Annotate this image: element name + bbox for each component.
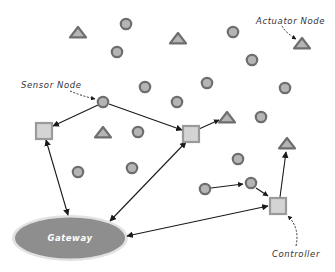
sensor-callout-arrow: [70, 91, 95, 99]
sensor-node-icon: [98, 97, 108, 107]
link-controller-to-actuator: [280, 152, 286, 197]
sensor-node-icon: [121, 19, 131, 29]
controller-callout-arrow: [288, 216, 297, 246]
sensor-node-icon: [140, 82, 150, 92]
link-sensor-to-controller: [256, 188, 268, 196]
center-relay-icon: [183, 126, 199, 142]
sensor-node-icon: [247, 55, 257, 65]
link-sensor-to-center-relay: [109, 104, 182, 130]
sensor-node-icon: [200, 184, 210, 194]
wsan-network-diagram: Gateway Sensor Node Actuator Node Contro…: [0, 0, 335, 272]
sensor-node-icon: [133, 127, 143, 137]
actuator-node-icon: [279, 138, 295, 148]
actuator-node-icon: [95, 127, 111, 137]
gateway: Gateway: [12, 215, 128, 261]
sensor-node-icon: [228, 27, 238, 37]
sensor-node-icon: [73, 167, 83, 177]
controller-icon: [270, 198, 286, 214]
controller-label: Controller: [272, 249, 320, 259]
gateway-label: Gateway: [48, 233, 93, 243]
actuator-node-label: Actuator Node: [255, 16, 325, 26]
sensor-nodes: [73, 19, 290, 194]
link-sensor-to-sensor: [211, 184, 243, 188]
actuator-node-icon: [170, 33, 186, 43]
sensor-node-icon: [112, 47, 122, 57]
sensor-node-icon: [246, 178, 256, 188]
link-gateway-controller: [127, 206, 268, 236]
sensor-node-icon: [202, 78, 212, 88]
sensor-node-icon: [172, 97, 182, 107]
sensor-node-icon: [233, 154, 243, 164]
actuator-callout-arrow: [282, 26, 296, 39]
actuator-node-icon: [294, 38, 310, 48]
left-relay-icon: [36, 123, 52, 139]
sensor-node-icon: [256, 112, 266, 122]
sensor-node-icon: [127, 163, 137, 173]
link-center-relay-gateway: [110, 142, 186, 221]
sensor-node-icon: [280, 83, 290, 93]
actuator-node-icon: [70, 27, 86, 37]
link-center-relay-to-actuator: [199, 120, 219, 129]
sensor-node-label: Sensor Node: [21, 80, 82, 90]
link-sensor-to-left-relay: [53, 105, 98, 126]
actuator-node-icon: [219, 112, 235, 122]
link-left-relay-gateway: [46, 140, 68, 215]
